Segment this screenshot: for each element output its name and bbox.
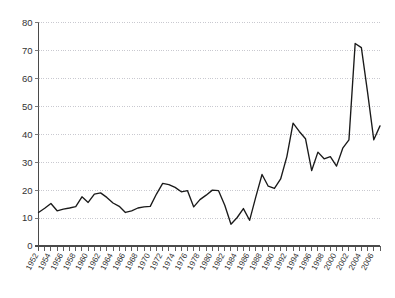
y-label-80: 80 <box>22 17 33 28</box>
y-label-60: 60 <box>22 73 33 84</box>
line-chart-plot: 01020304050607080 1952195419561958196019… <box>0 0 395 298</box>
y-label-40: 40 <box>22 129 33 140</box>
y-label-50: 50 <box>22 101 33 112</box>
x-tick-labels: 1952195419561958196019621964196619681970… <box>24 251 376 271</box>
y-label-30: 30 <box>22 157 33 168</box>
y-axis <box>35 23 39 251</box>
x-label-2006: 2006 <box>359 251 376 271</box>
chart-container: 01020304050607080 1952195419561958196019… <box>0 0 395 298</box>
gridlines <box>39 23 381 247</box>
y-label-20: 20 <box>22 185 33 196</box>
x-axis <box>35 246 381 251</box>
series-line <box>39 43 381 224</box>
y-label-0: 0 <box>27 240 32 251</box>
y-label-10: 10 <box>22 212 33 223</box>
data-series <box>39 43 381 224</box>
y-tick-labels: 01020304050607080 <box>22 17 33 252</box>
y-label-70: 70 <box>22 45 33 56</box>
